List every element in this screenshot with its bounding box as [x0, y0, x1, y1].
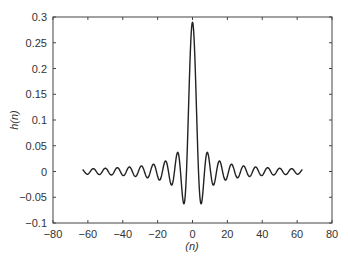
x-tick-label: 80: [326, 228, 338, 240]
x-tick-label: −20: [148, 228, 167, 240]
x-tick-label: −60: [79, 228, 98, 240]
plot-frame: [53, 17, 332, 223]
y-tick-label: 0.1: [32, 114, 47, 126]
y-tick-label: 0.3: [32, 11, 47, 23]
y-tick-label: 0.2: [32, 63, 47, 75]
x-axis-label: (n): [185, 240, 199, 252]
impulse-response-curve: [83, 22, 303, 204]
x-tick-label: 0: [189, 228, 195, 240]
x-tick-label: 60: [291, 228, 303, 240]
line-chart: −80−60−40−20020406080 −0.1−0.0500.050.10…: [0, 0, 348, 270]
x-tick-label: 40: [256, 228, 268, 240]
x-tick-label: −80: [44, 228, 63, 240]
y-axis-ticks: −0.1−0.0500.050.10.150.20.250.3: [19, 11, 332, 229]
y-tick-label: 0.25: [26, 37, 47, 49]
y-tick-label: −0.1: [25, 217, 47, 229]
y-axis-label: h(n): [8, 110, 20, 130]
y-tick-label: 0.15: [26, 88, 47, 100]
y-tick-label: −0.05: [19, 191, 47, 203]
x-tick-label: 20: [221, 228, 233, 240]
x-tick-label: −40: [113, 228, 132, 240]
y-tick-label: 0: [41, 166, 47, 178]
y-tick-label: 0.05: [26, 140, 47, 152]
